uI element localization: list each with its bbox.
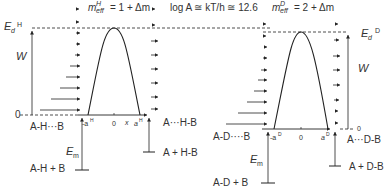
zero-d-label: 0 bbox=[357, 125, 361, 132]
svg-text:H: H bbox=[17, 21, 22, 28]
reactants-h: A-H + B bbox=[30, 163, 66, 174]
axis-zero-d: 0 bbox=[299, 134, 303, 141]
incoming-flux-h-arrows bbox=[40, 9, 80, 110]
svg-text:d: d bbox=[368, 34, 373, 41]
neg-a-d-label: -a bbox=[270, 134, 276, 141]
pos-a-d-label: a bbox=[321, 134, 325, 141]
barrier-h-curve bbox=[88, 28, 140, 115]
header-meff-h: m H eff = 1 + Δm bbox=[88, 0, 150, 14]
neg-a-h-label: -a bbox=[82, 120, 88, 127]
transmitted-flux-h-arrows bbox=[151, 9, 158, 109]
products-d: A + D-B bbox=[349, 161, 384, 172]
pos-a-h-label: a bbox=[134, 120, 138, 127]
product-complex-d: A···D-B bbox=[347, 134, 381, 145]
tunneling-diagram: m H eff = 1 + Δm log A ≅ kT/h ≅ 12.6 m D… bbox=[0, 0, 392, 196]
meff-d-sub: eff bbox=[280, 7, 289, 14]
svg-text:D: D bbox=[326, 131, 330, 137]
svg-text:H: H bbox=[139, 117, 143, 123]
axis-zero-h: 0 bbox=[112, 120, 116, 127]
svg-text:D: D bbox=[375, 27, 380, 34]
svg-text:d: d bbox=[11, 27, 16, 34]
reactant-complex-d: A-D····B bbox=[213, 131, 251, 142]
w-h-label: W bbox=[16, 50, 28, 62]
left-panel-h: E d H W 0 bbox=[4, 9, 270, 174]
header-meff-d: m D eff = 2 + Δm bbox=[272, 0, 334, 14]
meff-h-sub: eff bbox=[96, 7, 105, 14]
transmitted-flux-d-arrows bbox=[333, 24, 340, 123]
svg-text:m: m bbox=[257, 160, 263, 167]
zero-h-label: 0 bbox=[15, 109, 21, 120]
log-a-formula: log A ≅ kT/h ≅ 12.6 bbox=[170, 2, 258, 13]
meff-h-sup: H bbox=[96, 0, 102, 7]
svg-text:H: H bbox=[90, 117, 94, 123]
reactants-d: A-D + B bbox=[213, 177, 249, 188]
barrier-d-curve bbox=[274, 32, 328, 129]
reactant-complex-h: A-H···B bbox=[30, 121, 64, 132]
meff-d-rhs: = 2 + Δm bbox=[294, 2, 334, 13]
meff-h-rhs: = 1 + Δm bbox=[110, 2, 150, 13]
axis-x-label: x bbox=[124, 119, 129, 126]
svg-text:m: m bbox=[73, 152, 79, 159]
right-panel-d: E d D W 0 -a bbox=[213, 24, 384, 188]
w-d-label: W bbox=[358, 62, 370, 74]
products-h: A + H-B bbox=[163, 147, 198, 158]
product-complex-h: A···H-B bbox=[163, 117, 197, 128]
svg-text:D: D bbox=[278, 131, 282, 137]
meff-d-sup: D bbox=[280, 0, 285, 7]
incoming-flux-d-arrows bbox=[226, 24, 267, 124]
